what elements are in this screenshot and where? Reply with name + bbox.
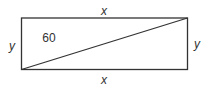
right-side-label: y bbox=[193, 37, 201, 51]
left-side-label: y bbox=[8, 39, 16, 53]
bottom-side-label: x bbox=[100, 73, 108, 87]
area-label: 60 bbox=[42, 31, 56, 45]
top-side-label: x bbox=[100, 4, 108, 18]
rectangle-diagram: x x y y 60 bbox=[0, 0, 209, 89]
